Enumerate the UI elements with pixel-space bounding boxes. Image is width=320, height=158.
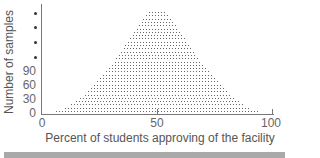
data-dot <box>197 104 198 105</box>
data-dot <box>133 68 134 69</box>
data-dot <box>164 19 165 20</box>
data-dot <box>97 91 98 92</box>
data-dot <box>208 95 209 96</box>
data-dot <box>133 101 134 102</box>
data-dot <box>211 81 212 82</box>
data-dot <box>220 91 221 92</box>
data-dot <box>163 48 164 49</box>
data-dot <box>155 19 156 20</box>
data-dot <box>83 108 84 109</box>
data-dot <box>196 65 197 66</box>
data-dot <box>190 81 191 82</box>
data-dot <box>223 88 224 89</box>
data-dot <box>130 52 131 53</box>
data-dot <box>197 111 198 112</box>
data-dot <box>137 58 138 59</box>
data-dot <box>190 78 191 79</box>
data-dot <box>106 71 107 72</box>
data-dot <box>145 62 146 63</box>
data-dot <box>181 95 182 96</box>
data-dot <box>193 95 194 96</box>
data-dot <box>94 91 95 92</box>
data-dot <box>88 95 89 96</box>
data-dot <box>157 22 158 23</box>
data-dot <box>130 68 131 69</box>
data-dot <box>157 91 158 92</box>
data-dot <box>190 75 191 76</box>
data-dot <box>163 85 164 86</box>
data-dot <box>206 111 207 112</box>
data-dot <box>154 101 155 102</box>
data-dot <box>218 108 219 109</box>
data-dot <box>181 85 182 86</box>
data-dot <box>112 88 113 89</box>
data-dot <box>160 65 161 66</box>
data-dot <box>185 45 186 46</box>
data-dot <box>157 88 158 89</box>
data-dot <box>104 111 105 112</box>
data-dot <box>131 98 132 99</box>
data-dot <box>136 48 137 49</box>
data-dot <box>199 91 200 92</box>
data-dot <box>196 75 197 76</box>
data-dot <box>127 95 128 96</box>
data-dot <box>175 85 176 86</box>
data-dot <box>235 101 236 102</box>
data-dot <box>112 75 113 76</box>
data-dot <box>146 104 147 105</box>
data-dot <box>124 81 125 82</box>
data-dot <box>124 95 125 96</box>
data-dot <box>173 111 174 112</box>
data-dot <box>155 42 156 43</box>
data-dot <box>125 98 126 99</box>
data-dot <box>137 111 138 112</box>
data-dot <box>103 81 104 82</box>
data-dot <box>193 68 194 69</box>
data-dot <box>188 58 189 59</box>
data-dot <box>149 15 150 16</box>
data-dot <box>158 32 159 33</box>
data-dot <box>142 88 143 89</box>
data-dot <box>107 111 108 112</box>
data-dot <box>202 95 203 96</box>
data-dot <box>109 71 110 72</box>
data-dot <box>89 111 90 112</box>
data-dot <box>205 68 206 69</box>
data-dot <box>137 108 138 109</box>
data-dot <box>215 108 216 109</box>
data-dot <box>220 101 221 102</box>
data-dot <box>230 104 231 105</box>
data-dot <box>107 108 108 109</box>
data-dot <box>164 104 165 105</box>
data-dot <box>175 88 176 89</box>
data-dot <box>218 111 219 112</box>
data-dot <box>160 68 161 69</box>
data-dot <box>106 75 107 76</box>
data-dot <box>151 35 152 36</box>
data-dot <box>152 104 153 105</box>
data-dot <box>154 52 155 53</box>
data-dot <box>169 85 170 86</box>
data-dot <box>187 101 188 102</box>
data-dot <box>209 104 210 105</box>
data-dot <box>161 58 162 59</box>
data-dot <box>83 98 84 99</box>
data-dot <box>187 52 188 53</box>
data-dot <box>152 19 153 20</box>
data-dot <box>146 98 147 99</box>
data-dot <box>139 71 140 72</box>
data-dot <box>121 95 122 96</box>
data-dot <box>151 81 152 82</box>
data-dot <box>170 104 171 105</box>
data-dot <box>133 95 134 96</box>
data-dot <box>152 58 153 59</box>
data-dot <box>191 111 192 112</box>
data-dot <box>155 108 156 109</box>
data-dot <box>136 95 137 96</box>
data-dot <box>191 55 192 56</box>
data-dot <box>95 98 96 99</box>
data-dot <box>127 78 128 79</box>
data-dot <box>182 111 183 112</box>
data-dot <box>154 85 155 86</box>
data-dot <box>154 48 155 49</box>
